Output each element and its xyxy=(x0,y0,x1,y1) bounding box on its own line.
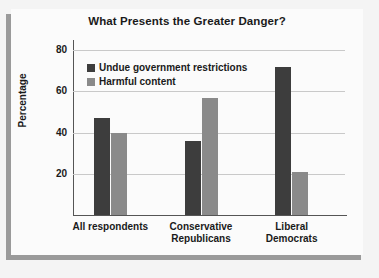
bar-chart: What Presents the Greater Danger? Percen… xyxy=(11,9,363,255)
x-axis-line xyxy=(73,215,347,216)
bar xyxy=(185,141,201,215)
chart-title: What Presents the Greater Danger? xyxy=(11,15,363,27)
category-label-line: Liberal xyxy=(237,221,347,233)
y-axis-tick-label: 80 xyxy=(33,44,67,55)
bar xyxy=(94,118,110,215)
gridline xyxy=(73,50,345,51)
bar xyxy=(111,133,127,215)
legend-item: Harmful content xyxy=(87,76,247,87)
chart-card: What Presents the Greater Danger? Percen… xyxy=(11,9,363,255)
legend-label: Undue government restrictions xyxy=(99,62,247,73)
bar xyxy=(275,67,291,215)
bar xyxy=(292,172,308,215)
y-axis-tick-label: 20 xyxy=(33,168,67,179)
y-axis-label: Percentage xyxy=(17,46,28,156)
screenshot-root: What Presents the Greater Danger? Percen… xyxy=(0,0,379,278)
category-label-line: Democrats xyxy=(237,233,347,245)
x-axis-category-label: LiberalDemocrats xyxy=(237,221,347,245)
y-axis-tick-label: 40 xyxy=(33,127,67,138)
bar xyxy=(202,98,218,215)
legend-swatch-icon xyxy=(87,78,95,86)
legend-label: Harmful content xyxy=(99,76,176,87)
legend-swatch-icon xyxy=(87,64,95,72)
y-axis-tick-label: 60 xyxy=(33,85,67,96)
chart-legend: Undue government restrictionsHarmful con… xyxy=(87,62,247,90)
legend-item: Undue government restrictions xyxy=(87,62,247,73)
gridline xyxy=(73,91,345,92)
